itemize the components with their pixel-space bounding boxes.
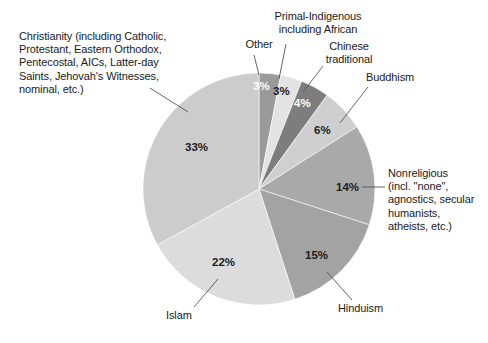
slice-value-nonreligious: 14%	[336, 181, 359, 193]
slice-value-chinese-traditional: 4%	[294, 97, 311, 109]
slice-value-buddhism: 6%	[314, 124, 331, 136]
leader-line-buddhism	[340, 87, 368, 123]
slice-value-primal-indigenous: 3%	[273, 85, 290, 97]
slice-value-other: 3%	[253, 80, 270, 92]
slice-label-buddhism: Buddhism	[366, 71, 440, 84]
slice-value-christianity: 33%	[185, 141, 208, 153]
slice-value-islam: 22%	[212, 256, 235, 268]
slice-label-primal-indigenous: Primal-Indigenous including African	[262, 10, 374, 36]
slice-label-christianity: Christianity (including Catholic, Protes…	[19, 30, 199, 96]
slice-label-hinduism: Hinduism	[338, 302, 410, 315]
slice-label-other: Other	[236, 38, 282, 51]
slice-label-islam: Islam	[166, 309, 218, 322]
slice-value-hinduism: 15%	[305, 249, 328, 261]
slice-label-chinese-traditional: Chinese traditional	[311, 40, 387, 66]
leader-line-hinduism	[327, 272, 352, 300]
leader-line-other	[254, 55, 259, 75]
pie-chart: Christianity (including Catholic, Protes…	[0, 0, 488, 343]
slice-label-nonreligious: Nonreligious (incl. "none", agnostics, s…	[388, 167, 486, 233]
